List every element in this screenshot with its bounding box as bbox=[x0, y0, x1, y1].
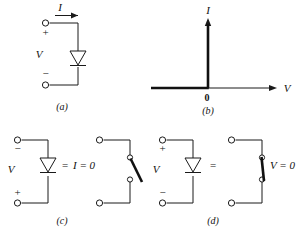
panel-a-current-arrow-head bbox=[71, 13, 78, 19]
panel-b: I V 0 (b) bbox=[151, 4, 292, 117]
panel-c-top-wire bbox=[22, 140, 49, 158]
panel-b-caption: (b) bbox=[202, 105, 214, 117]
panel-a-diode-triangle bbox=[70, 51, 86, 65]
panel-d-voltage-label: V bbox=[153, 163, 161, 175]
panel-c-sw-top-wire bbox=[104, 140, 131, 155]
panel-c-bottom-wire bbox=[22, 176, 49, 203]
panel-a-terminal-bottom bbox=[42, 82, 48, 88]
panel-d-condition-label: V = 0 bbox=[270, 159, 295, 171]
panel-a-current-label: I bbox=[57, 1, 63, 13]
panel-d-caption: (d) bbox=[207, 215, 219, 227]
panel-c: − V + = I = 0 (c) bbox=[8, 137, 142, 227]
panel-d-diode-triangle bbox=[185, 158, 201, 172]
panel-d-sw-terminal-top bbox=[228, 137, 234, 143]
panel-c-condition-label: I = 0 bbox=[72, 159, 96, 171]
panel-c-sw-bottom-wire bbox=[104, 182, 131, 203]
panel-c-voltage-label: V bbox=[8, 163, 16, 175]
panel-c-terminal-bottom bbox=[14, 200, 20, 206]
panel-d-equals-sign: = bbox=[210, 159, 216, 171]
panel-d-sw-top-wire bbox=[236, 140, 263, 155]
panel-a-voltage-label: V bbox=[36, 48, 44, 60]
panel-a: I + V − (a) bbox=[36, 1, 86, 113]
panel-d-bottom-wire bbox=[167, 176, 194, 203]
panel-d-plus-sign: + bbox=[159, 142, 165, 154]
panel-d-sw-terminal-bottom bbox=[228, 200, 234, 206]
panel-c-plus-sign: + bbox=[14, 186, 20, 198]
panel-d: + V − = V = 0 (d) bbox=[153, 137, 296, 227]
panel-b-x-axis-label: V bbox=[284, 82, 292, 94]
panel-c-diode-triangle bbox=[40, 158, 56, 172]
panel-a-top-wire bbox=[50, 23, 79, 51]
panel-a-minus-sign: − bbox=[42, 67, 48, 79]
panel-c-caption: (c) bbox=[56, 215, 68, 227]
panel-c-equals-sign: = bbox=[62, 159, 68, 171]
panel-b-origin-label: 0 bbox=[205, 92, 210, 103]
diode-figure-svg: I + V − (a) I V 0 (b) bbox=[0, 0, 298, 236]
panel-b-x-axis-arrowhead bbox=[269, 85, 277, 91]
panel-b-y-axis-label: I bbox=[205, 4, 211, 16]
panel-c-sw-terminal-top bbox=[96, 137, 102, 143]
panel-a-caption: (a) bbox=[56, 101, 68, 113]
panel-c-sw-terminal-bottom bbox=[96, 200, 102, 206]
panel-a-plus-sign: + bbox=[42, 26, 48, 38]
panel-d-sw-bottom-wire bbox=[236, 182, 263, 203]
panel-a-bottom-wire bbox=[50, 67, 79, 85]
panel-d-minus-sign: − bbox=[159, 186, 165, 198]
figure-container: I + V − (a) I V 0 (b) bbox=[0, 0, 298, 236]
panel-d-top-wire bbox=[167, 140, 194, 158]
panel-c-minus-sign: − bbox=[14, 142, 20, 154]
panel-c-switch-node-bottom bbox=[127, 177, 132, 182]
panel-d-terminal-bottom bbox=[159, 200, 165, 206]
